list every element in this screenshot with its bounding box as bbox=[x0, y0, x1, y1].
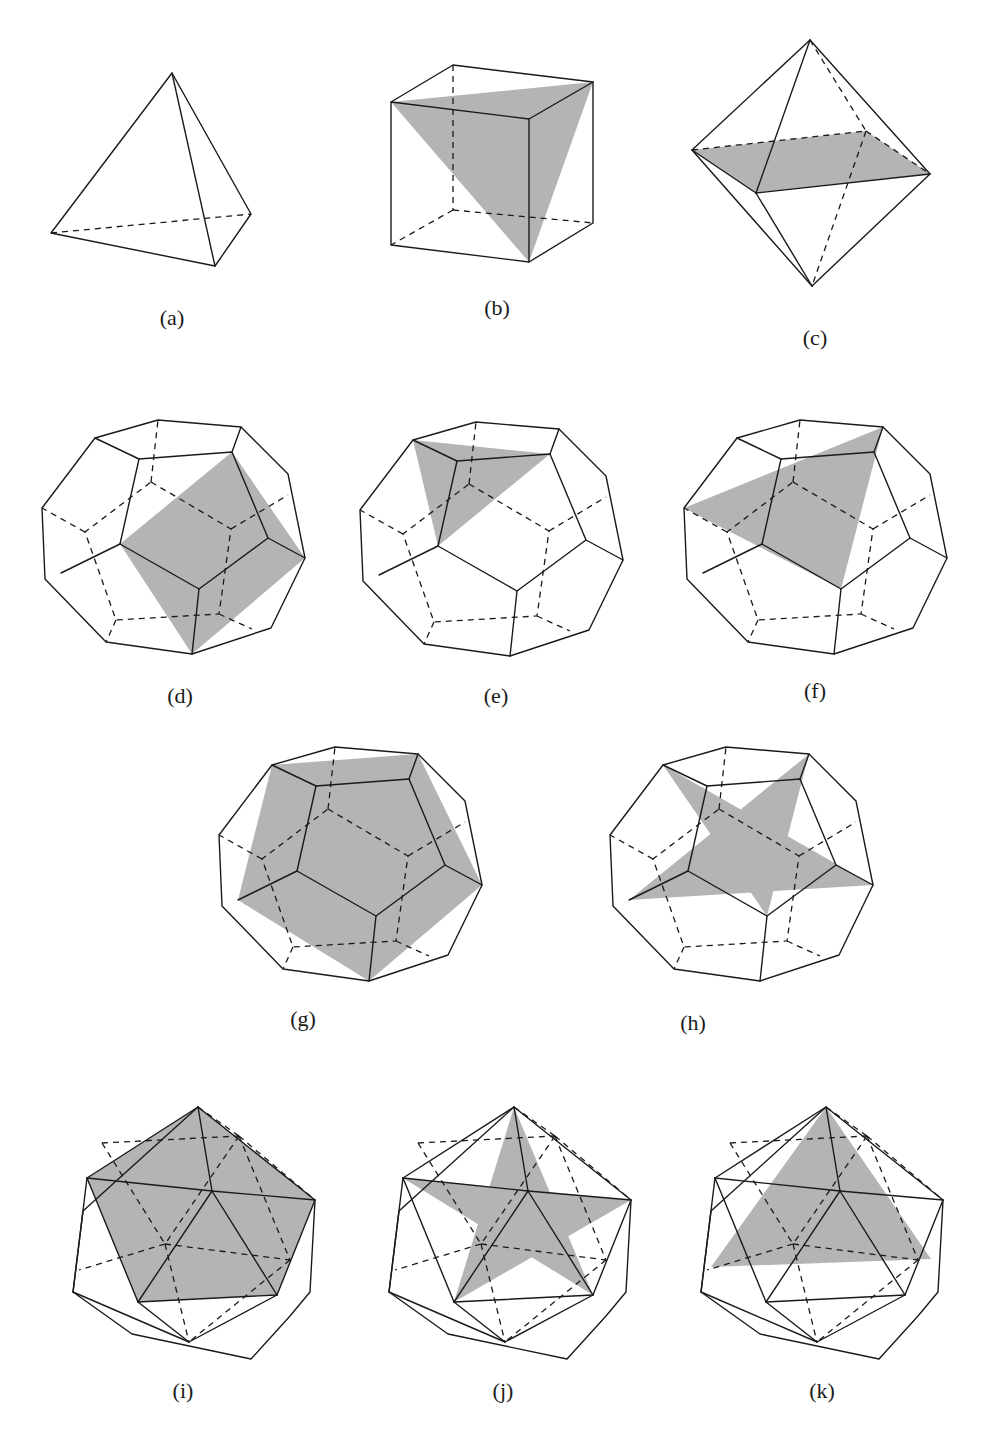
shaded-pentagram bbox=[403, 1107, 631, 1302]
icosahedron-k bbox=[701, 1107, 943, 1359]
dodecahedron-h bbox=[610, 747, 873, 981]
label-k: (k) bbox=[809, 1378, 835, 1404]
label-d: (d) bbox=[167, 683, 193, 709]
shaded-triangle bbox=[711, 1107, 931, 1267]
dodecahedron-f bbox=[684, 420, 947, 654]
label-j: (j) bbox=[493, 1378, 514, 1404]
cube-b bbox=[391, 65, 593, 262]
label-b: (b) bbox=[484, 295, 510, 321]
label-g: (g) bbox=[290, 1006, 316, 1032]
shaded-pentagon bbox=[238, 754, 482, 981]
shaded-pentagon bbox=[87, 1107, 315, 1302]
octahedron-c bbox=[692, 40, 930, 286]
label-e: (e) bbox=[484, 683, 508, 709]
label-c: (c) bbox=[803, 325, 827, 351]
label-i: (i) bbox=[173, 1378, 194, 1404]
dodecahedron-g bbox=[219, 747, 482, 981]
dodecahedron-e bbox=[360, 422, 623, 656]
shaded-pentagram bbox=[629, 754, 873, 916]
shaded-large-triangle bbox=[684, 427, 883, 589]
shaded-square bbox=[120, 452, 305, 654]
tetrahedron-a bbox=[51, 73, 251, 266]
label-a: (a) bbox=[160, 305, 184, 331]
label-f: (f) bbox=[804, 678, 826, 704]
label-h: (h) bbox=[680, 1010, 706, 1036]
dodecahedron-d bbox=[42, 420, 305, 654]
icosahedron-j bbox=[389, 1107, 631, 1359]
shaded-triangle bbox=[391, 82, 593, 262]
shaded-square bbox=[692, 131, 930, 193]
icosahedron-i bbox=[73, 1107, 315, 1359]
polyhedra-figure bbox=[0, 0, 992, 1453]
